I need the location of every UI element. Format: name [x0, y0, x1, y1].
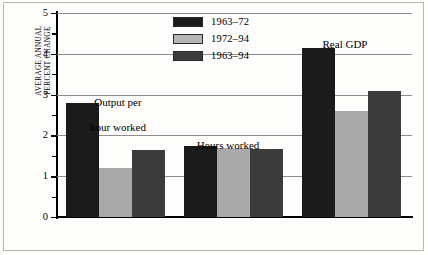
- group-label-hours-worked: Hours worked: [183, 139, 273, 152]
- legend-item-0: 1963–72: [173, 14, 283, 29]
- y-tick-label-5: 5: [26, 8, 48, 18]
- legend-label-1: 1972–94: [211, 33, 249, 44]
- bar-chart-figure: AVERAGE ANNUAL PERCENT CHANGE 5 4 3 2 1 …: [0, 0, 428, 255]
- bar-g0-s2: [132, 150, 165, 217]
- legend-swatch-icon-1: [173, 34, 203, 44]
- legend-item-2: 1963–94: [173, 48, 283, 63]
- bar-g2-s2: [368, 91, 401, 218]
- legend-label-2: 1963–94: [211, 50, 249, 61]
- y-axis-labels: 5 4 3 2 1 0: [18, 0, 48, 255]
- group-label-output-per-hour-worked: Output per hour worked: [73, 83, 163, 146]
- legend-label-0: 1963–72: [211, 16, 249, 27]
- y-tick-label-4: 4: [26, 49, 48, 59]
- legend-item-1: 1972–94: [173, 31, 283, 46]
- bar-g1-s2: [250, 149, 283, 218]
- legend-swatch-icon-0: [173, 17, 203, 27]
- y-tick-label-2: 2: [26, 130, 48, 140]
- group-label-real-gdp: Real GDP: [300, 38, 390, 51]
- y-tick-label-3: 3: [26, 90, 48, 100]
- bar-g1-s1: [217, 148, 250, 217]
- legend: 1963–72 1972–94 1963–94: [173, 14, 283, 65]
- bar-g2-s0: [302, 48, 335, 217]
- bar-g1-s0: [184, 146, 217, 217]
- bar-g2-s1: [335, 111, 368, 217]
- legend-swatch-icon-2: [173, 51, 203, 61]
- group-label-line2: hour worked: [73, 121, 163, 134]
- y-tick-label-1: 1: [26, 171, 48, 181]
- bar-g0-s1: [99, 168, 132, 217]
- y-tick-label-0: 0: [26, 212, 48, 222]
- group-label-line1: Output per: [73, 96, 163, 109]
